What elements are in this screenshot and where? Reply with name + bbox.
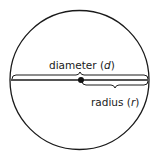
circle-figure (0, 0, 159, 154)
radius-label: radius (r) (91, 97, 139, 108)
radius-close-paren: ) (135, 96, 139, 108)
diameter-close-paren: ) (111, 59, 115, 71)
radius-brace (82, 81, 148, 88)
diameter-word: diameter (49, 59, 97, 71)
radius-word: radius (91, 96, 123, 108)
diameter-symbol: d (104, 59, 111, 71)
circle-diagram: diameter (d) radius (r) (0, 0, 159, 154)
center-point (78, 77, 84, 83)
diameter-label: diameter (d) (49, 60, 115, 71)
